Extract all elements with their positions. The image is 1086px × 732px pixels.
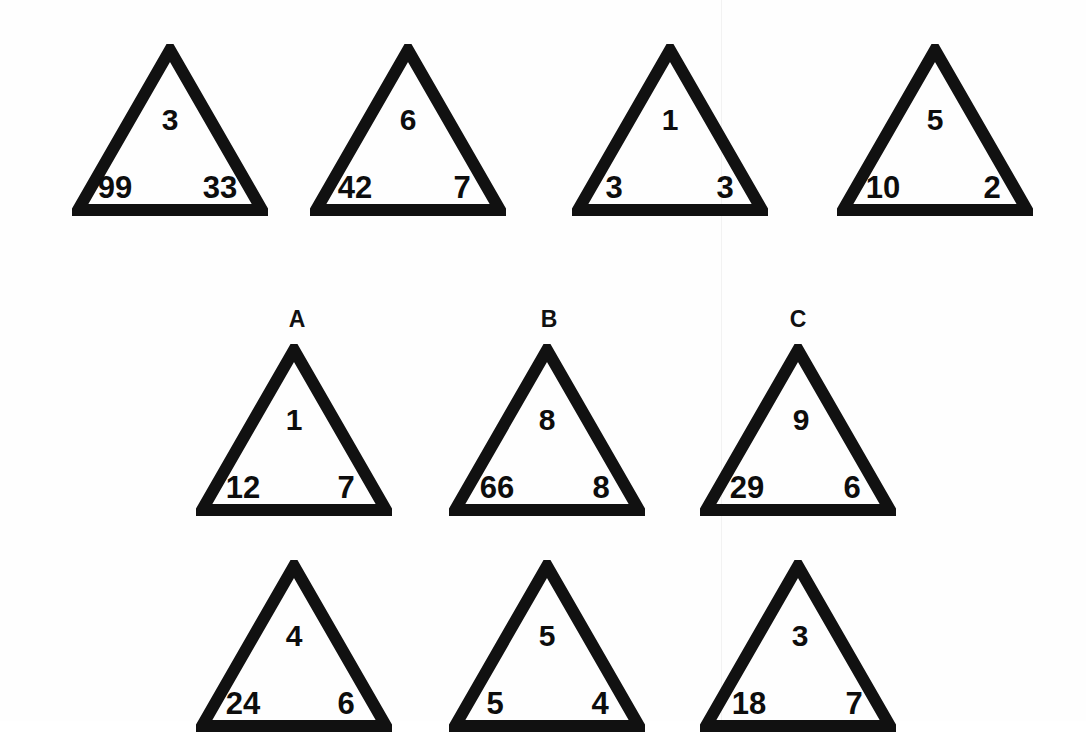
triangle-left-value: 29 (730, 472, 764, 503)
triangle-top-value: 5 (927, 105, 944, 135)
triangle-top-value: 1 (286, 405, 303, 435)
triangle-right-value: 7 (453, 172, 470, 203)
triangle-left-value: 5 (486, 688, 503, 719)
triangle-row-1-item-4: 5 10 2 (837, 44, 1033, 216)
triangle-option-c[interactable]: 9 29 6 (700, 344, 896, 516)
option-label-a: A (267, 308, 327, 331)
triangle-right-value: 33 (203, 172, 237, 203)
triangle-left-value: 3 (605, 172, 622, 203)
triangle-left-value: 42 (338, 172, 372, 203)
triangle-top-value: 3 (162, 105, 179, 135)
triangle-left-value: 99 (98, 172, 132, 203)
triangle-row-1-item-1: 3 99 33 (72, 44, 268, 216)
triangle-left-value: 12 (226, 472, 260, 503)
triangle-row-3-item-2[interactable]: 5 5 4 (449, 560, 645, 732)
option-label-c: C (768, 308, 828, 331)
triangle-top-value: 1 (662, 105, 679, 135)
triangle-left-value: 10 (866, 172, 900, 203)
triangle-right-value: 6 (337, 688, 354, 719)
triangle-top-value: 3 (792, 621, 809, 651)
triangle-top-value: 4 (286, 621, 303, 651)
triangle-row-1-item-2: 6 42 7 (310, 44, 506, 216)
triangle-right-value: 4 (591, 688, 608, 719)
triangle-right-value: 3 (716, 172, 733, 203)
triangle-row-3-item-3[interactable]: 3 18 7 (700, 560, 896, 732)
triangle-left-value: 24 (226, 688, 260, 719)
triangle-right-value: 7 (337, 472, 354, 503)
triangle-top-value: 6 (400, 105, 417, 135)
triangle-top-value: 8 (539, 405, 556, 435)
triangle-row-3-item-1[interactable]: 4 24 6 (196, 560, 392, 732)
option-label-b: B (519, 308, 579, 331)
triangle-right-value: 6 (843, 472, 860, 503)
triangle-top-value: 5 (539, 621, 556, 651)
triangle-option-b[interactable]: 8 66 8 (449, 344, 645, 516)
triangle-right-value: 8 (592, 472, 609, 503)
triangle-right-value: 2 (983, 172, 1000, 203)
triangle-option-a[interactable]: 1 12 7 (196, 344, 392, 516)
triangle-left-value: 66 (480, 472, 514, 503)
triangle-right-value: 7 (845, 688, 862, 719)
triangle-top-value: 9 (793, 405, 810, 435)
triangle-row-1-item-3: 1 3 3 (572, 44, 768, 216)
triangle-left-value: 18 (732, 688, 766, 719)
